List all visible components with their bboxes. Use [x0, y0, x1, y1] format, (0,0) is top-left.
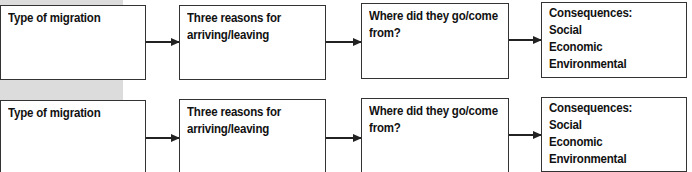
arrow-right-icon [146, 41, 179, 43]
box-label: Economic [549, 134, 675, 151]
box-label: Environmental [549, 56, 675, 73]
destination-box[interactable]: Where did they go/come from? [361, 98, 509, 172]
consequences-box[interactable]: Consequences: Social Economic Environmen… [541, 97, 687, 172]
box-label: Where did they go/come [369, 8, 497, 25]
box-label: Economic [549, 39, 675, 56]
box-label: Social [549, 117, 675, 134]
destination-box[interactable]: Where did they go/come from? [361, 3, 509, 79]
arrow-right-icon [146, 137, 179, 139]
box-label: Social [549, 22, 675, 39]
type-of-migration-box[interactable]: Type of migration [0, 5, 146, 80]
box-label: from? [369, 25, 497, 42]
box-label: Type of migration [8, 10, 134, 27]
box-label: from? [369, 120, 497, 137]
arrow-right-icon [326, 41, 361, 43]
arrow-right-icon [326, 137, 361, 139]
box-label: Where did they go/come [369, 103, 497, 120]
box-label: Consequences: [549, 5, 675, 22]
box-label: Three reasons for [187, 104, 314, 121]
arrow-right-icon [509, 39, 541, 41]
arrow-right-icon [509, 134, 541, 136]
consequences-box[interactable]: Consequences: Social Economic Environmen… [541, 2, 687, 78]
box-label: Three reasons for [187, 10, 314, 27]
box-label: Environmental [549, 151, 675, 168]
box-label: Consequences: [549, 100, 675, 117]
reasons-box[interactable]: Three reasons for arriving/leaving [179, 5, 326, 80]
box-label: arriving/leaving [187, 27, 314, 44]
type-of-migration-box[interactable]: Type of migration [0, 100, 146, 172]
reasons-box[interactable]: Three reasons for arriving/leaving [179, 99, 326, 172]
box-label: arriving/leaving [187, 121, 314, 138]
box-label: Type of migration [8, 105, 134, 122]
